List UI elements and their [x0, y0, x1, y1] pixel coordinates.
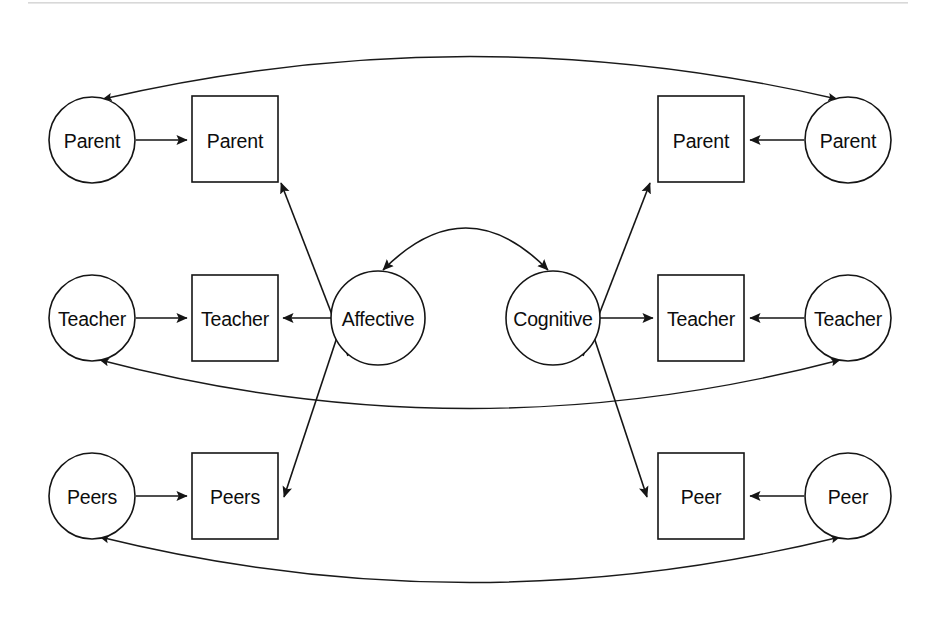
node-right-peer-square[interactable]: Peer: [658, 453, 744, 539]
node-left-parent-circle[interactable]: Parent: [49, 97, 135, 183]
right-peer-square-label: Peer: [681, 486, 722, 508]
path-diagram-svg: Parent Teacher Peers Parent Teacher Peer…: [0, 0, 939, 620]
node-right-teacher-circle[interactable]: Teacher: [805, 275, 891, 361]
right-peer-circle-label: Peer: [828, 486, 869, 508]
node-left-parent-square[interactable]: Parent: [192, 96, 278, 182]
parent-parent-correlation-arc: [103, 57, 837, 100]
left-parent-square-label: Parent: [207, 130, 264, 152]
scan-artifact-line: [28, 2, 908, 4]
left-parent-circle-label: Parent: [64, 130, 121, 152]
affective-circle-label: Affective: [342, 308, 415, 330]
node-right-teacher-square[interactable]: Teacher: [658, 275, 744, 361]
affective-cognitive-correlation-arc: [383, 228, 548, 270]
peers-peer-correlation-arc: [100, 537, 840, 583]
node-cognitive-circle[interactable]: Cognitive: [506, 271, 600, 365]
left-peers-circle-label: Peers: [67, 486, 117, 508]
left-peers-square-label: Peers: [210, 486, 260, 508]
node-left-teacher-circle[interactable]: Teacher: [49, 275, 135, 361]
node-right-parent-square[interactable]: Parent: [658, 96, 744, 182]
node-left-teacher-square[interactable]: Teacher: [192, 275, 278, 361]
path-diagram-canvas: Parent Teacher Peers Parent Teacher Peer…: [0, 0, 939, 620]
right-parent-square-label: Parent: [673, 130, 730, 152]
right-parent-circle-label: Parent: [820, 130, 877, 152]
node-affective-circle[interactable]: Affective: [331, 271, 425, 365]
left-teacher-circle-label: Teacher: [58, 308, 127, 330]
node-left-peers-circle[interactable]: Peers: [49, 453, 135, 539]
cognitive-circle-label: Cognitive: [513, 308, 593, 330]
node-left-peers-square[interactable]: Peers: [192, 453, 278, 539]
right-teacher-circle-label: Teacher: [814, 308, 883, 330]
right-teacher-square-label: Teacher: [667, 308, 736, 330]
left-teacher-square-label: Teacher: [201, 308, 270, 330]
teacher-teacher-correlation-arc: [100, 360, 840, 409]
node-right-peer-circle[interactable]: Peer: [805, 453, 891, 539]
node-right-parent-circle[interactable]: Parent: [805, 97, 891, 183]
